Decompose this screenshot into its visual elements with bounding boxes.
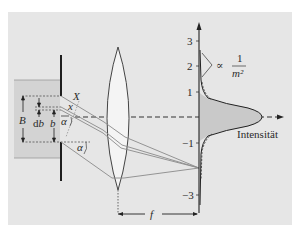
label-B: B <box>19 114 26 126</box>
tick-label-2: 2 <box>187 60 193 72</box>
proportional-symbol: ∝ <box>216 59 223 71</box>
tick-label-3: 3 <box>187 35 193 47</box>
label-alpha: α <box>77 141 83 153</box>
label-x: x <box>67 100 73 112</box>
tick-label-minus-1: −1 <box>182 137 194 149</box>
label-b: b <box>50 117 56 129</box>
label-db: db <box>33 117 45 129</box>
single-slit-diffraction-diagram: B db b X x α α f <box>0 0 300 231</box>
fraction-denominator: m² <box>232 67 244 79</box>
tick-label-minus-3: −3 <box>182 189 194 201</box>
intensity-axis-label: Intensität <box>237 128 278 140</box>
label-alpha-bar: α <box>61 115 67 127</box>
label-X: X <box>72 90 81 102</box>
tick-label-1: 1 <box>187 86 193 98</box>
fraction-numerator: 1 <box>237 52 243 64</box>
